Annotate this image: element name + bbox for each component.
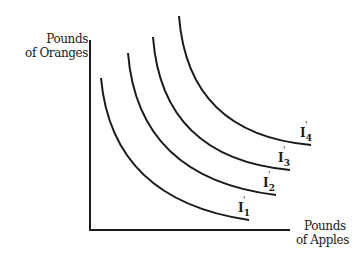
x-axis-label-line2: of Apples [296,233,349,247]
curve-i4 [179,16,311,145]
curve-label-i3: I'3 [278,151,290,165]
x-axis-label: Pounds of Apples [296,219,349,247]
curve-i2 [128,53,276,195]
curve-label-i2: I'2 [263,176,275,190]
y-axis-label-line1: Pounds [10,32,88,46]
y-axis-label: Pounds of Oranges [10,32,88,60]
curve-i3 [153,37,290,170]
x-axis-label-line1: Pounds [296,219,349,233]
y-axis-label-line2: of Oranges [10,46,88,60]
curve-label-i1: I'1 [238,201,250,215]
curve-i1 [101,78,249,220]
curve-label-i4: I'4 [300,126,312,140]
